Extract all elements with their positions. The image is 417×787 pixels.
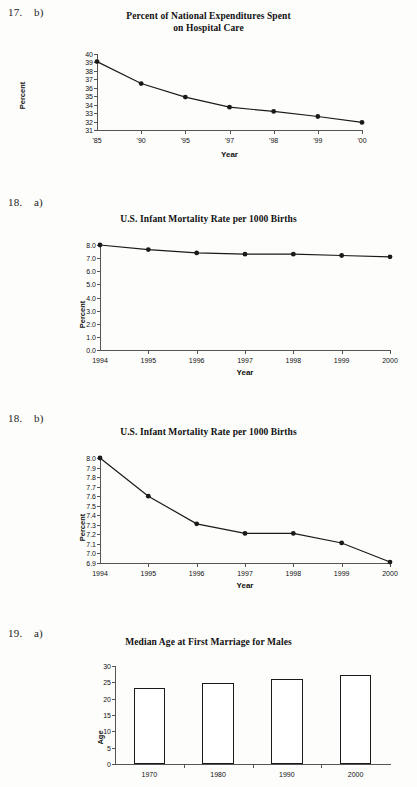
y-tick-label: 31	[67, 127, 93, 134]
x-axis-label: Year	[100, 581, 390, 590]
data-point-marker	[227, 105, 232, 110]
y-axis-label: Age	[96, 713, 105, 763]
chart-title-line1: U.S. Infant Mortality Rate per 1000 Birt…	[0, 426, 417, 438]
x-tick-label: 1999	[334, 570, 350, 577]
x-tick-label: 1997	[237, 570, 253, 577]
bar	[134, 688, 166, 764]
y-tick-label: 7.5	[70, 502, 96, 509]
data-point-marker	[243, 531, 248, 536]
y-tick-label: 34	[67, 101, 93, 108]
y-tick-label: 2.0	[70, 320, 96, 327]
x-tick-label: 1996	[189, 570, 205, 577]
bar	[202, 683, 234, 764]
figure-hospital-care: Percent of National Expenditures Spent o…	[0, 6, 417, 176]
y-tick-mark	[112, 682, 115, 683]
x-axis-label: Year	[97, 150, 362, 159]
y-tick-label: 7.7	[70, 483, 96, 490]
data-point-marker	[243, 252, 248, 257]
data-series	[97, 54, 366, 134]
y-tick-label: 37	[67, 76, 93, 83]
data-point-marker	[271, 109, 276, 114]
y-axis-line	[115, 666, 116, 765]
y-tick-label: 6.0	[70, 268, 96, 275]
y-tick-label: 25	[89, 679, 111, 686]
y-tick-label: 7.0	[70, 255, 96, 262]
y-tick-label: 30	[89, 663, 111, 670]
y-tick-label: 5.0	[70, 281, 96, 288]
data-point-marker	[315, 114, 320, 119]
bar	[340, 675, 372, 764]
x-tick-label: 2000	[382, 357, 398, 364]
plot-area: 0.01.02.03.04.05.06.07.08.01994199519961…	[100, 245, 390, 350]
figure-infant-mortality-full-scale: U.S. Infant Mortality Rate per 1000 Birt…	[0, 205, 417, 390]
data-point-marker	[95, 59, 100, 64]
data-point-marker	[98, 243, 103, 248]
data-point-marker	[291, 252, 296, 257]
y-tick-label: 15	[89, 712, 111, 719]
plot-area: 31323334353637383940'85'90'95'97'98'99'0…	[97, 54, 362, 130]
data-series	[100, 245, 394, 354]
data-point-marker	[183, 95, 188, 100]
x-tick-label: 1990	[279, 771, 295, 778]
x-tick-label: 2000	[348, 771, 364, 778]
y-tick-mark	[112, 731, 115, 732]
y-tick-label: 0	[89, 761, 111, 768]
data-point-marker	[388, 254, 393, 259]
x-tick-label: 1997	[237, 357, 253, 364]
x-tick-label: 1996	[189, 357, 205, 364]
x-tick-label: 1998	[286, 357, 302, 364]
x-tick-label: 1999	[334, 357, 350, 364]
y-tick-label: 38	[67, 67, 93, 74]
x-tick-label: 1995	[141, 570, 157, 577]
y-tick-label: 5	[89, 744, 111, 751]
data-point-marker	[194, 250, 199, 255]
y-tick-label: 36	[67, 84, 93, 91]
x-axis-label: Year	[100, 368, 390, 377]
y-tick-label: 3.0	[70, 307, 96, 314]
chart-title-line1: Percent of National Expenditures Spent	[0, 10, 417, 22]
y-tick-mark	[112, 666, 115, 667]
y-tick-mark	[112, 715, 115, 716]
data-point-marker	[360, 120, 365, 125]
data-point-marker	[339, 541, 344, 546]
y-tick-label: 7.1	[70, 540, 96, 547]
x-tick-label: '85	[92, 137, 101, 144]
y-tick-label: 10	[89, 728, 111, 735]
x-tick-label: '99	[313, 137, 322, 144]
y-tick-mark	[112, 748, 115, 749]
x-tick-mark	[253, 765, 254, 768]
y-tick-label: 7.9	[70, 464, 96, 471]
x-tick-mark	[321, 765, 322, 768]
y-tick-label: 8.0	[70, 455, 96, 462]
y-axis-label: Percent	[18, 66, 27, 126]
data-point-marker	[146, 494, 151, 499]
y-tick-label: 7.3	[70, 521, 96, 528]
x-tick-label: 1995	[141, 357, 157, 364]
bar	[271, 679, 303, 764]
y-tick-mark	[112, 764, 115, 765]
figure-infant-mortality-expanded-scale: U.S. Infant Mortality Rate per 1000 Birt…	[0, 418, 417, 603]
figure-median-age-marriage: Median Age at First Marriage for Males A…	[0, 628, 417, 787]
y-tick-label: 7.0	[70, 550, 96, 557]
plot-area: 6.97.07.17.27.37.47.57.67.77.87.98.01994…	[100, 458, 390, 563]
x-tick-label: 2000	[382, 570, 398, 577]
y-tick-label: 4.0	[70, 294, 96, 301]
x-tick-label: 1994	[92, 357, 108, 364]
data-point-marker	[98, 456, 103, 461]
y-tick-label: 6.9	[70, 560, 96, 567]
y-tick-label: 0.0	[70, 347, 96, 354]
y-tick-label: 7.8	[70, 474, 96, 481]
x-tick-label: '97	[225, 137, 234, 144]
y-tick-label: 7.2	[70, 531, 96, 538]
data-point-marker	[291, 531, 296, 536]
data-point-marker	[388, 560, 393, 565]
plot-area: 0510152025301970198019902000	[115, 666, 390, 764]
y-tick-label: 33	[67, 110, 93, 117]
y-tick-label: 20	[89, 695, 111, 702]
y-tick-label: 32	[67, 118, 93, 125]
data-point-marker	[339, 253, 344, 258]
scanned-textbook-page: 17.b) Percent of National Expenditures S…	[0, 0, 417, 787]
chart-title-line2: on Hospital Care	[0, 22, 417, 34]
y-tick-label: 1.0	[70, 333, 96, 340]
x-tick-label: '95	[181, 137, 190, 144]
